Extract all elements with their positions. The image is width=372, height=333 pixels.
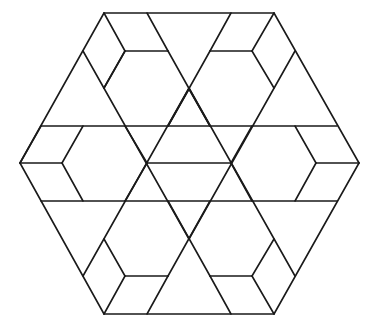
line-segment: [125, 126, 147, 163]
line-segment: [147, 276, 168, 314]
line-segment: [210, 13, 231, 51]
line-segment: [20, 126, 41, 163]
line-segment: [231, 126, 252, 163]
hexagon-pattern-diagram: [0, 0, 372, 333]
line-segment: [147, 13, 168, 51]
line-segment: [252, 239, 274, 276]
line-segment: [210, 276, 231, 314]
line-segment: [189, 88, 295, 276]
line-segment: [274, 13, 359, 163]
line-segment: [295, 126, 316, 163]
line-segment: [83, 88, 189, 276]
line-segment: [104, 276, 125, 314]
line-segment: [104, 51, 125, 88]
line-segment: [274, 163, 359, 314]
line-segment: [252, 51, 274, 88]
line-segment: [104, 239, 125, 276]
line-segment: [20, 163, 104, 314]
line-segment: [252, 276, 274, 314]
line-segment: [295, 163, 316, 201]
line-segment: [104, 13, 125, 51]
line-segment: [62, 163, 83, 201]
line-segment: [252, 13, 274, 51]
line-segment: [62, 126, 83, 163]
